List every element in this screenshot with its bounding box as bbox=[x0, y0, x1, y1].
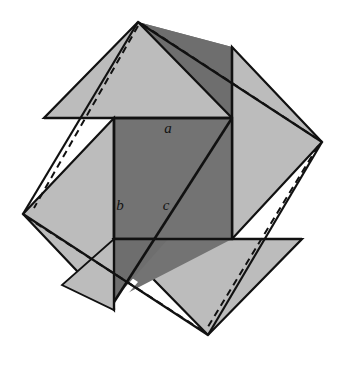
label-c: c bbox=[163, 197, 170, 213]
label-a: a bbox=[164, 120, 172, 136]
diagram-canvas: a b c bbox=[0, 0, 346, 369]
label-b: b bbox=[116, 197, 124, 213]
pythagorean-diagram: a b c bbox=[0, 0, 346, 369]
